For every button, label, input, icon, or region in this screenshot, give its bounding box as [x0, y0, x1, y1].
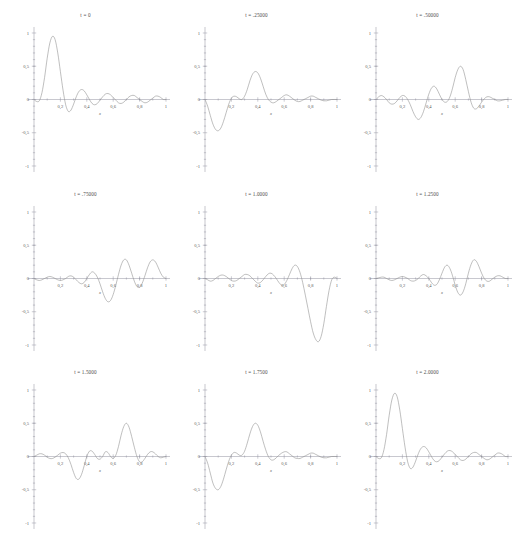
panel-grid: t = 0-1-0,500,510,20,40,60,81xt = .25000…: [0, 0, 513, 536]
x-axis-label: x: [98, 290, 101, 295]
y-tick-label: 1: [369, 388, 372, 393]
y-tick-label: -0,5: [193, 130, 201, 136]
x-tick-label: 0,2: [229, 282, 235, 288]
y-tick-label: 1: [27, 209, 30, 214]
y-tick-label: 1: [369, 31, 372, 36]
x-tick-label: 0,2: [400, 104, 406, 110]
x-tick-label: 0,6: [452, 104, 458, 110]
plot-panel: t = .75000-1-0,500,510,20,40,60,81x: [0, 179, 171, 358]
x-axis-label: x: [269, 469, 272, 474]
y-tick-label: -1: [25, 342, 30, 347]
x-tick-label: 1: [165, 461, 168, 466]
x-tick-label: 0,2: [400, 461, 406, 467]
x-tick-label: 0,4: [255, 282, 261, 288]
x-axis-label: x: [440, 469, 443, 474]
x-tick-label: 0,4: [426, 104, 432, 110]
plot-area: -1-0,500,510,20,40,60,81x: [342, 179, 513, 358]
x-tick-label: 0,8: [137, 104, 143, 110]
x-tick-label: 1: [336, 282, 339, 287]
plot-panel: t = 2.0000-1-0,500,510,20,40,60,81x: [342, 357, 513, 536]
y-tick-label: -1: [367, 164, 372, 169]
plot-area: -1-0,500,510,20,40,60,81x: [171, 357, 342, 536]
y-tick-label: 0,5: [365, 243, 371, 249]
plot-canvas: -1-0,500,510,20,40,60,81x: [0, 0, 171, 179]
plot-area: -1-0,500,510,20,40,60,81x: [171, 179, 342, 358]
x-tick-label: 0,2: [229, 461, 235, 467]
x-tick-label: 0,4: [255, 461, 261, 467]
wave-evolution-figure: t = 0-1-0,500,510,20,40,60,81xt = .25000…: [0, 0, 513, 536]
y-tick-label: -0,5: [22, 309, 30, 315]
plot-panel: t = 1.0000-1-0,500,510,20,40,60,81x: [171, 179, 342, 358]
data-curve: [205, 265, 337, 342]
plot-area: -1-0,500,510,20,40,60,81x: [342, 357, 513, 536]
y-tick-label: -1: [367, 342, 372, 347]
y-tick-label: 0,5: [23, 64, 29, 70]
x-tick-label: 0,4: [84, 104, 90, 110]
plot-area: -1-0,500,510,20,40,60,81x: [342, 0, 513, 179]
y-tick-label: -1: [196, 521, 201, 526]
x-tick-label: 0,8: [308, 104, 314, 110]
x-tick-label: 0,4: [426, 461, 432, 467]
x-tick-label: 0,6: [281, 282, 287, 288]
y-tick-label: 1: [369, 209, 372, 214]
plot-panel: t = 1.2500-1-0,500,510,20,40,60,81x: [342, 179, 513, 358]
plot-panel: t = .25000-1-0,500,510,20,40,60,81x: [171, 0, 342, 179]
x-axis-label: x: [440, 290, 443, 295]
x-tick-label: 1: [507, 104, 510, 109]
y-tick-label: -0,5: [364, 309, 372, 315]
data-curve: [34, 36, 166, 112]
y-tick-label: -1: [367, 521, 372, 526]
y-tick-label: 0,5: [365, 421, 371, 427]
y-tick-label: 0,5: [194, 243, 200, 249]
x-tick-label: 0,2: [400, 282, 406, 288]
plot-canvas: -1-0,500,510,20,40,60,81x: [0, 357, 171, 536]
x-tick-label: 1: [165, 282, 168, 287]
x-tick-label: 0,8: [479, 282, 485, 288]
y-tick-label: -0,5: [193, 488, 201, 494]
plot-panel: t = 1.5000-1-0,500,510,20,40,60,81x: [0, 357, 171, 536]
x-tick-label: 1: [336, 461, 339, 466]
plot-canvas: -1-0,500,510,20,40,60,81x: [171, 179, 342, 358]
y-tick-label: 0,5: [23, 421, 29, 427]
y-tick-label: -0,5: [193, 309, 201, 315]
y-tick-label: 0,5: [194, 64, 200, 70]
plot-panel: t = 0-1-0,500,510,20,40,60,81x: [0, 0, 171, 179]
x-axis-label: x: [98, 469, 101, 474]
x-tick-label: 0,6: [110, 104, 116, 110]
x-tick-label: 0,6: [281, 461, 287, 467]
x-tick-label: 1: [336, 104, 339, 109]
data-curve: [376, 393, 508, 469]
plot-canvas: -1-0,500,510,20,40,60,81x: [171, 0, 342, 179]
plot-canvas: -1-0,500,510,20,40,60,81x: [342, 179, 513, 358]
x-tick-label: 0,8: [479, 461, 485, 467]
plot-canvas: -1-0,500,510,20,40,60,81x: [171, 357, 342, 536]
x-tick-label: 0,2: [229, 104, 235, 110]
x-tick-label: 1: [507, 282, 510, 287]
data-curve: [205, 72, 337, 131]
y-tick-label: -1: [25, 164, 30, 169]
y-tick-label: 1: [198, 388, 201, 393]
plot-area: -1-0,500,510,20,40,60,81x: [0, 179, 171, 358]
x-tick-label: 0,2: [58, 282, 64, 288]
y-tick-label: -0,5: [22, 488, 30, 494]
x-tick-label: 0,8: [308, 461, 314, 467]
x-tick-label: 0,4: [84, 282, 90, 288]
x-tick-label: 0,2: [58, 461, 64, 467]
x-tick-label: 1: [507, 461, 510, 466]
x-tick-label: 0,4: [426, 282, 432, 288]
x-axis-label: x: [440, 111, 443, 116]
x-axis-label: x: [269, 290, 272, 295]
y-tick-label: 1: [27, 388, 30, 393]
plot-canvas: -1-0,500,510,20,40,60,81x: [0, 179, 171, 358]
y-tick-label: 0,5: [23, 243, 29, 249]
y-tick-label: 1: [198, 31, 201, 36]
plot-panel: t = .50000-1-0,500,510,20,40,60,81x: [342, 0, 513, 179]
x-axis-label: x: [269, 111, 272, 116]
x-tick-label: 0,8: [308, 282, 314, 288]
x-tick-label: 1: [165, 104, 168, 109]
x-tick-label: 0,6: [281, 104, 287, 110]
y-tick-label: -1: [25, 521, 30, 526]
y-tick-label: 0,5: [365, 64, 371, 70]
y-tick-label: 1: [27, 31, 30, 36]
plot-canvas: -1-0,500,510,20,40,60,81x: [342, 357, 513, 536]
